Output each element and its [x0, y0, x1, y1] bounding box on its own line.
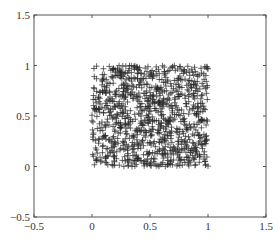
x-tick-label: 0.5	[143, 220, 157, 232]
x-tick-label: 1.5	[259, 220, 273, 232]
y-tick-label: 1.5	[16, 9, 30, 21]
chart-background	[0, 0, 280, 244]
scatter-chart: −0.500.511.5 −0.500.511.5	[0, 0, 280, 244]
y-tick-label: 0.5	[16, 110, 30, 122]
y-tick-label: 0	[25, 161, 31, 173]
y-tick-label: −0.5	[10, 211, 30, 223]
x-tick-label: 1	[205, 220, 211, 232]
y-tick-label: 1	[25, 60, 31, 72]
x-tick-label: 0	[89, 220, 95, 232]
